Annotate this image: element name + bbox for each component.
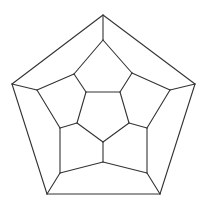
edge-i4-i0 (77, 92, 86, 123)
edge-m4-m5 (103, 162, 147, 173)
edge-m7-m8 (37, 90, 60, 128)
edge-m0-m1 (103, 40, 132, 73)
edge-o3-o4 (12, 84, 47, 194)
edge-o2-m4 (147, 173, 160, 194)
edge-o4-m8 (12, 84, 37, 90)
edge-o0-o1 (103, 15, 195, 84)
edge-o4-o0 (12, 15, 103, 84)
edge-m9-m0 (74, 40, 103, 74)
edge-m2-m3 (147, 90, 170, 128)
edge-m3-i2 (129, 123, 147, 128)
dodecahedron-graph (0, 0, 206, 208)
edge-m8-m9 (37, 74, 74, 90)
edge-o3-m6 (47, 173, 60, 194)
edge-o1-m2 (170, 84, 195, 90)
edge-o1-o2 (160, 84, 195, 194)
edge-m7-i4 (60, 123, 77, 128)
edge-i3-i4 (77, 123, 103, 142)
edge-m9-i0 (74, 74, 86, 92)
edge-m1-i1 (120, 73, 132, 92)
edge-i1-i2 (120, 92, 129, 123)
edge-m1-m2 (132, 73, 170, 90)
edge-i2-i3 (103, 123, 129, 142)
edge-m5-m6 (60, 162, 103, 173)
